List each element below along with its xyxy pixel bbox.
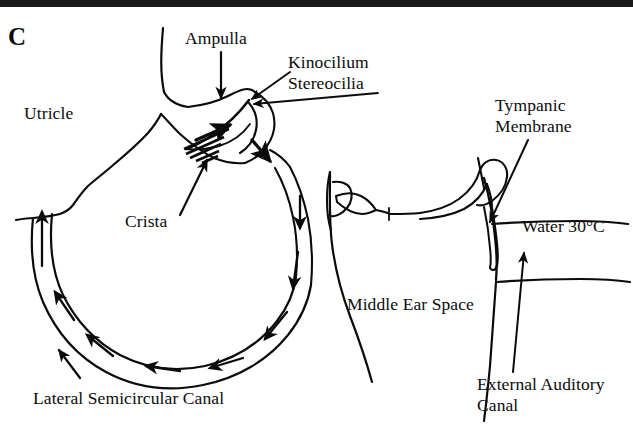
utricle-left-contour (33, 114, 161, 218)
endolymph-flow-arrows (42, 196, 300, 371)
panel-letter-c: C (8, 22, 26, 51)
stereocilia-leader-line (254, 93, 378, 104)
ear-canal-inferior-wall (496, 279, 630, 282)
ampulla-inner-fold (240, 103, 257, 153)
kinocilium-leader-line (252, 72, 290, 99)
utricle-upper-wall (161, 28, 188, 107)
label-tympanic-membrane-line1: Tympanic (495, 95, 566, 115)
stapes-head-neck (376, 210, 390, 214)
stapes-crura (336, 193, 376, 214)
external-auditory-canal-leader-arrow (513, 253, 524, 372)
incus-body-upper (420, 170, 480, 213)
label-stereocilia: Stereocilia (288, 73, 364, 93)
incus-long-process (390, 213, 420, 214)
malleus-manubrium-medial (484, 207, 491, 268)
ampulla-lower-wall (214, 158, 245, 163)
label-utricle: Utricle (24, 103, 73, 123)
utricle-neck-left (16, 218, 33, 220)
canal-upper-right-to-ampulla (270, 150, 290, 167)
label-external-auditory-canal-line2: Canal (477, 395, 518, 415)
label-tympanic-membrane-line2: Membrane (495, 116, 572, 136)
label-lateral-semicircular-canal: Lateral Semicircular Canal (33, 388, 224, 408)
semicircular-canal-outer-wall (32, 218, 311, 388)
figure-panel-c: C Utricle Ampulla Kinocilium Stereocilia… (0, 0, 633, 431)
tympanic-membrane-leader-arrow (490, 140, 528, 222)
label-middle-ear-space: Middle Ear Space (347, 294, 474, 314)
cupula-body (186, 100, 249, 149)
lateral-canal-leader-arrow (59, 350, 80, 378)
label-water-temperature: Water 30°C (522, 216, 605, 236)
flow-arrow-right-lower-diagonal (265, 312, 287, 339)
cupula-deflection-arrow-upper (196, 125, 230, 140)
label-crista: Crista (125, 211, 167, 231)
canal-join-ampulla-inner (275, 168, 297, 277)
crista-leader-arrow (180, 160, 207, 215)
semicircular-canal-inner-wall (51, 214, 296, 369)
label-kinocilium: Kinocilium (288, 52, 369, 72)
label-ampulla: Ampulla (185, 28, 247, 48)
flow-arrow-left-lower-diagonal (87, 335, 113, 356)
label-external-auditory-canal-line1: External Auditory (477, 374, 605, 394)
